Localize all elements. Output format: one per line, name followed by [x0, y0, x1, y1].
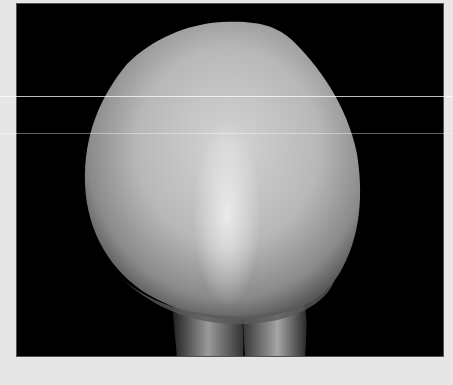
scanline-artifact	[0, 96, 453, 97]
scanline-artifact	[0, 133, 453, 134]
crown-sheen	[193, 122, 261, 306]
crown-photo	[17, 4, 444, 357]
photo-frame	[16, 3, 444, 357]
